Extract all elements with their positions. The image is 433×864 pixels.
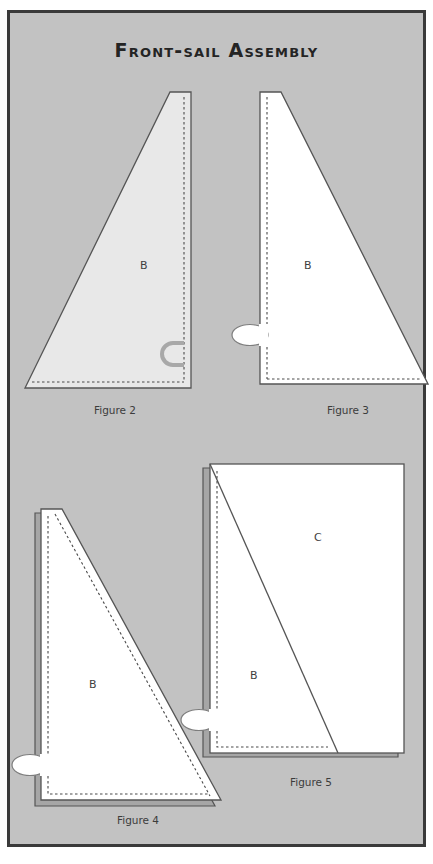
illustration-page: Front-sail Assembly B Figure 2 B Figure … — [0, 0, 433, 864]
rect-outline — [210, 464, 404, 753]
illustration-frame: Front-sail Assembly B Figure 2 B Figure … — [7, 10, 426, 847]
figure-5-piece-label-c: C — [314, 531, 322, 544]
figure-5-caption: Figure 5 — [261, 776, 361, 788]
figure-5-drawing — [10, 13, 429, 850]
loop-mask — [209, 709, 218, 731]
figure-5-shape — [181, 464, 404, 757]
figure-5-piece-label-b: B — [250, 669, 258, 682]
